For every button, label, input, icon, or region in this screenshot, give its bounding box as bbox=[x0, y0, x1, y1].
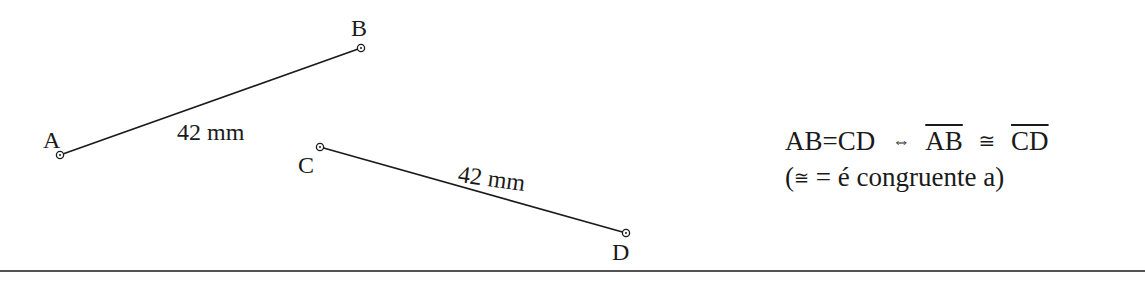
point-c-label: C bbox=[298, 153, 314, 177]
formula-row-equality: AB=CD ⇔ AB ≅ CD bbox=[785, 128, 1049, 164]
segment-cd-line bbox=[320, 147, 626, 233]
congruence-formula: AB=CD ⇔ AB ≅ CD (≅ = é congruente a) bbox=[785, 128, 1049, 200]
point-b-label: B bbox=[351, 16, 367, 40]
point-b-marker bbox=[357, 44, 364, 51]
note-congruent-icon: ≅ bbox=[794, 167, 809, 188]
formula-equals: = bbox=[823, 126, 838, 156]
point-c-marker bbox=[316, 143, 323, 150]
point-d-label: D bbox=[612, 240, 629, 264]
congruent-icon: ≅ bbox=[970, 129, 1005, 153]
segment-ab-length: 42 mm bbox=[177, 120, 244, 144]
segment-cd-notation: CD bbox=[1011, 126, 1049, 156]
point-a-label: A bbox=[43, 128, 60, 152]
note-open-paren: ( bbox=[785, 162, 794, 192]
bottom-divider bbox=[0, 270, 1145, 272]
iff-icon: ⇔ bbox=[882, 131, 920, 151]
formula-row-note: (≅ = é congruente a) bbox=[785, 164, 1049, 200]
note-text: = é congruente a) bbox=[809, 162, 1004, 192]
segment-ab-notation: AB bbox=[925, 126, 963, 156]
formula-cd: CD bbox=[838, 126, 876, 156]
formula-ab: AB bbox=[785, 126, 823, 156]
segment-congruence-diagram: A B C D 42 mm 42 mm AB=CD ⇔ AB ≅ CD (≅ =… bbox=[0, 0, 1145, 284]
point-d-marker bbox=[622, 229, 629, 236]
